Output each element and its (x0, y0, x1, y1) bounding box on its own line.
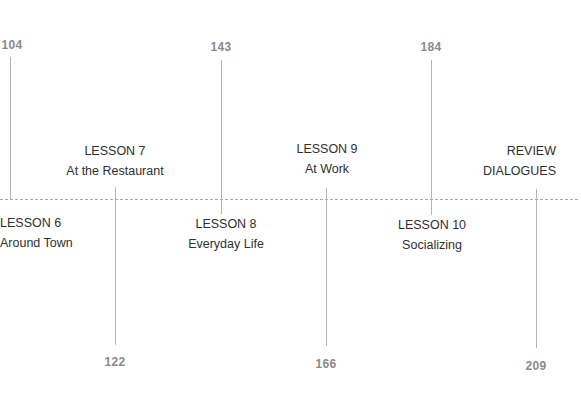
lesson-subtitle: Around Town (0, 233, 73, 253)
timeline-axis (0, 199, 578, 200)
tick-line (431, 60, 432, 215)
page-number: 209 (516, 359, 556, 373)
tick-line (221, 60, 222, 214)
lesson-title: REVIEW (483, 141, 556, 161)
page-number: 104 (0, 38, 32, 52)
lesson-title: LESSON 8 (188, 214, 264, 234)
lesson-subtitle: DIALOGUES (483, 161, 556, 181)
lesson-subtitle: At Work (296, 159, 357, 179)
tick-line (536, 189, 537, 348)
lesson-label: LESSON 9 At Work (296, 139, 357, 179)
lesson-title: LESSON 10 (398, 215, 466, 235)
page-number: 143 (201, 40, 241, 54)
lesson-label: LESSON 8 Everyday Life (188, 214, 264, 254)
lesson-label: LESSON 6 Around Town (0, 213, 73, 253)
tick-line (326, 188, 327, 346)
tick-line (10, 57, 11, 200)
lesson-label: REVIEW DIALOGUES (483, 141, 556, 181)
lesson-subtitle: At the Restaurant (66, 161, 163, 181)
page-number: 166 (306, 357, 346, 371)
lesson-title: LESSON 9 (296, 139, 357, 159)
lesson-title: LESSON 7 (66, 141, 163, 161)
lesson-label: LESSON 10 Socializing (398, 215, 466, 255)
page-number: 122 (95, 355, 135, 369)
lesson-subtitle: Everyday Life (188, 234, 264, 254)
lesson-subtitle: Socializing (398, 235, 466, 255)
tick-line (115, 187, 116, 345)
lesson-label: LESSON 7 At the Restaurant (66, 141, 163, 181)
lesson-title: LESSON 6 (0, 213, 73, 233)
page-number: 184 (411, 40, 451, 54)
